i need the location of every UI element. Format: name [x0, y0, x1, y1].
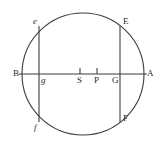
label-point-G: G: [112, 76, 119, 85]
label-point-A: A: [147, 69, 154, 78]
label-point-e: e: [33, 17, 37, 26]
label-point-f: f: [34, 123, 37, 132]
label-point-F: F: [123, 114, 128, 123]
label-point-E: E: [123, 17, 129, 26]
label-point-P: P: [94, 76, 99, 85]
geometry-figure: e E B g S P G A f F: [0, 0, 162, 150]
label-point-B: B: [13, 69, 19, 78]
label-point-S: S: [77, 76, 82, 85]
label-point-g: g: [41, 76, 46, 85]
